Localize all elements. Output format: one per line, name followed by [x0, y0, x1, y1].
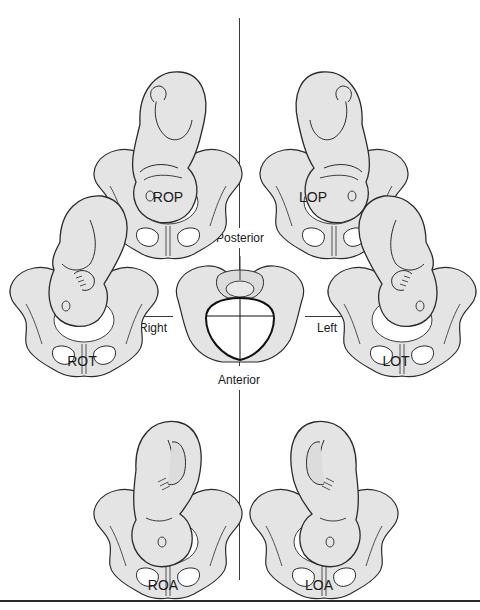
position-label-lot: LOT — [376, 353, 416, 369]
bottom-divider — [0, 600, 480, 602]
position-label-rot: ROT — [62, 353, 102, 369]
position-label-loa: LOA — [299, 577, 339, 593]
position-label-lop: LOP — [293, 189, 333, 205]
position-label-rop: ROP — [148, 189, 188, 205]
position-label-roa: ROA — [143, 577, 183, 593]
direction-label-anterior: Anterior — [218, 373, 260, 387]
central-pelvis-diagram — [172, 256, 308, 366]
